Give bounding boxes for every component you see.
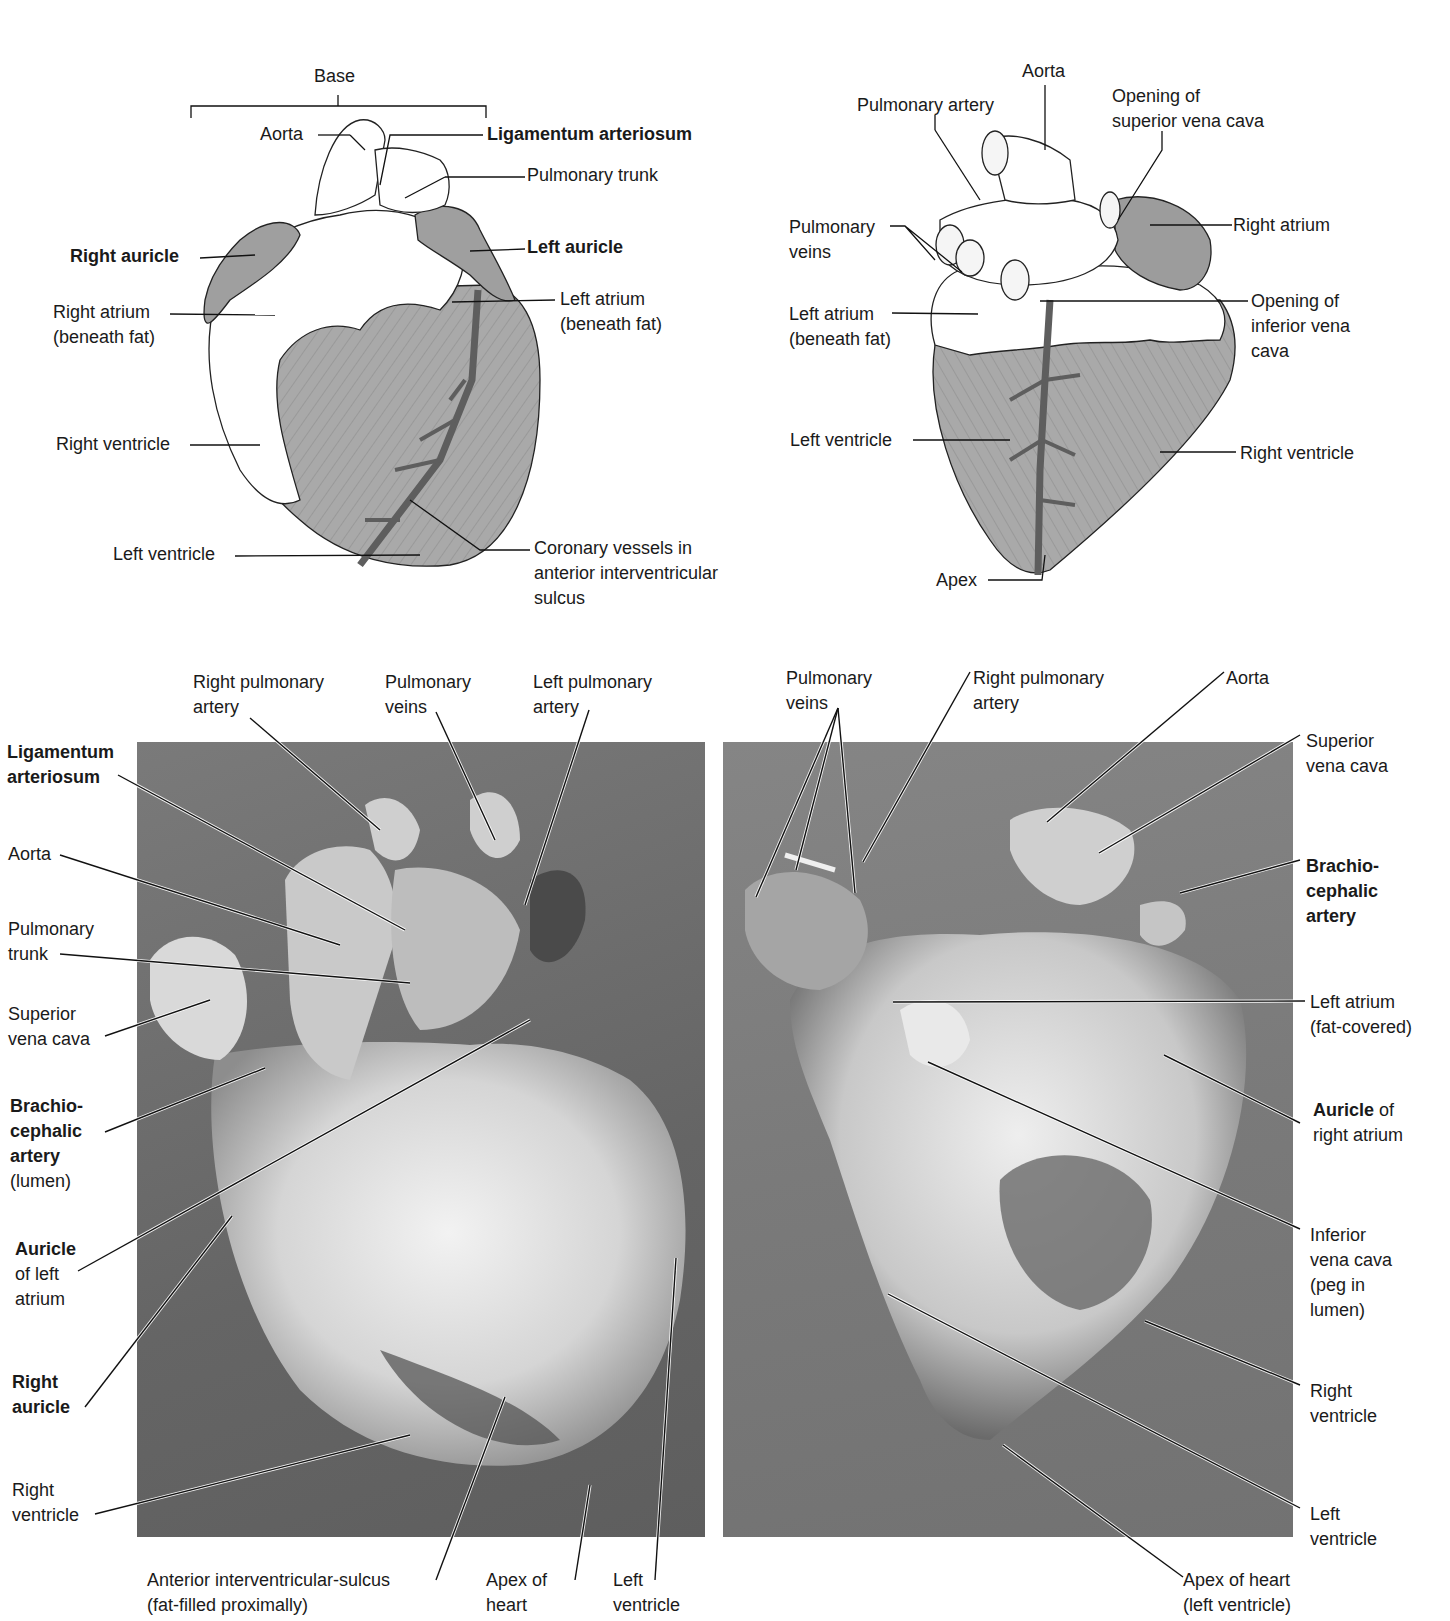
label-pulmonary-artery: Pulmonary artery — [857, 93, 994, 118]
label-auricle-left-atrium-rest: of left atrium — [15, 1262, 65, 1312]
label-brachiocephalic-artery: Brachio- cephalic artery — [1306, 854, 1379, 929]
label-pulmonary-trunk: Pulmonary trunk — [527, 163, 658, 188]
label-aorta: Aorta — [1226, 666, 1269, 691]
label-left-ventricle: Left ventricle — [113, 542, 215, 567]
label-left-auricle: Left auricle — [527, 235, 623, 260]
label-auricle-left-atrium: Auricle — [15, 1237, 76, 1262]
label-apex-of-heart: Apex of heart — [486, 1568, 547, 1618]
label-right-pulmonary-artery: Right pulmonary artery — [973, 666, 1104, 716]
label-auricle-right-atrium: Auricle of — [1313, 1098, 1394, 1123]
illustration-layer — [0, 0, 1450, 1621]
label-right-pulmonary-artery: Right pulmonary artery — [193, 670, 324, 720]
figure-stage: Base Aorta Ligamentum arteriosum Pulmona… — [0, 0, 1450, 1621]
label-right-ventricle: Right ventricle — [1240, 441, 1354, 466]
label-pulmonary-veins: Pulmonary veins — [786, 666, 872, 716]
label-pulmonary-veins: Pulmonary veins — [789, 215, 875, 265]
label-right-ventricle: Right ventricle — [1310, 1379, 1377, 1429]
label-left-ventricle: Left ventricle — [790, 428, 892, 453]
label-apex: Apex — [936, 568, 977, 593]
diagram-anterior-heart — [204, 120, 540, 566]
label-superior-vena-cava: Superior vena cava — [8, 1002, 90, 1052]
label-pulmonary-veins: Pulmonary veins — [385, 670, 471, 720]
label-anterior-interventricular-sulcus: Anterior interventricular-sulcus (fat-fi… — [147, 1568, 390, 1618]
label-apex-of-heart: Apex of heart (left ventricle) — [1183, 1568, 1291, 1618]
label-left-pulmonary-artery: Left pulmonary artery — [533, 670, 652, 720]
label-auricle-bold: Auricle — [1313, 1100, 1374, 1120]
photo-anterior-specimen — [150, 792, 686, 1466]
diagram-posterior-heart — [931, 131, 1235, 575]
label-ligamentum-arteriosum: Ligamentum arteriosum — [7, 740, 114, 790]
label-aorta: Aorta — [8, 842, 51, 867]
label-left-atrium: Left atrium (beneath fat) — [560, 287, 662, 337]
label-aorta: Aorta — [260, 122, 303, 147]
label-base: Base — [314, 64, 355, 89]
label-coronary-vessels: Coronary vessels in anterior interventri… — [534, 536, 718, 611]
label-right-ventricle: Right ventricle — [12, 1478, 79, 1528]
label-right-auricle: Right auricle — [70, 244, 179, 269]
label-brachiocephalic-artery: Brachio- cephalic artery — [10, 1094, 83, 1169]
label-auricle-of: of — [1374, 1100, 1394, 1120]
label-left-atrium: Left atrium (beneath fat) — [789, 302, 891, 352]
label-aorta: Aorta — [1022, 59, 1065, 84]
label-superior-vena-cava: Superior vena cava — [1306, 729, 1388, 779]
label-left-ventricle: Left ventricle — [613, 1568, 680, 1618]
label-inferior-vena-cava: Inferior vena cava (peg in lumen) — [1310, 1223, 1392, 1323]
label-ligamentum-arteriosum: Ligamentum arteriosum — [487, 122, 692, 147]
label-pulmonary-trunk: Pulmonary trunk — [8, 917, 94, 967]
label-right-auricle: Right auricle — [12, 1370, 70, 1420]
label-opening-superior-vena-cava: Opening of superior vena cava — [1112, 84, 1264, 134]
label-right-atrium: Right atrium (beneath fat) — [53, 300, 155, 350]
photo-posterior-specimen — [745, 808, 1246, 1440]
label-left-atrium: Left atrium (fat-covered) — [1310, 990, 1412, 1040]
label-right-atrium: Right atrium — [1233, 213, 1330, 238]
label-right-ventricle: Right ventricle — [56, 432, 170, 457]
label-auricle-right-atrium-line2: right atrium — [1313, 1123, 1403, 1148]
label-left-ventricle: Left ventricle — [1310, 1502, 1377, 1552]
label-brachiocephalic-lumen: (lumen) — [10, 1169, 71, 1194]
label-opening-inferior-vena-cava: Opening of inferior vena cava — [1251, 289, 1350, 364]
